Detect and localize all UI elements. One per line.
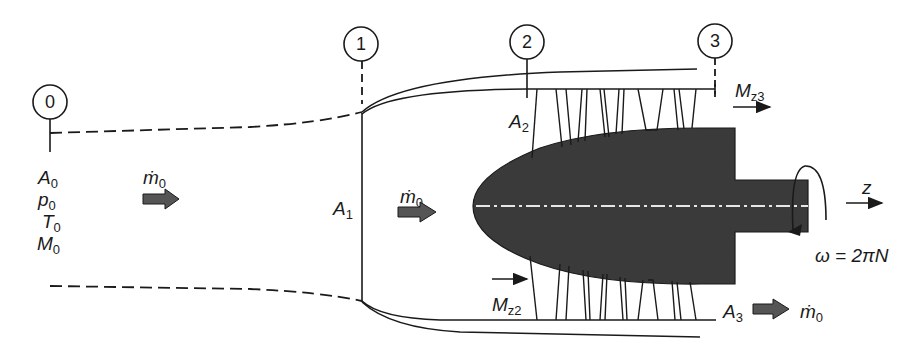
- upper-casing-outer: [362, 69, 697, 112]
- axis-z-label: z: [861, 177, 872, 198]
- freestream-properties: A0 p0 T0 M0: [37, 167, 61, 257]
- moment-3-label: Mz3: [735, 80, 765, 104]
- station-1-label: 1: [356, 34, 366, 54]
- station-3-label: 3: [710, 31, 720, 51]
- station-1-marker: 1: [344, 27, 378, 104]
- station-2-label: 2: [522, 32, 532, 52]
- mass-flow-exit-arrow: [753, 299, 789, 319]
- station-0-marker: 0: [33, 85, 67, 152]
- lower-casing-inner: [362, 301, 716, 320]
- area-1-label: A1: [332, 198, 353, 222]
- turbomachine-diagram: 0 1 2 3: [0, 0, 918, 360]
- area-3-label: A3: [722, 301, 743, 325]
- mass-flow-exit-label: ṁ0: [800, 301, 823, 325]
- pressure-0-label: p0: [37, 189, 56, 213]
- area-2-label: A2: [508, 111, 529, 135]
- lower-streamtube-boundary: [50, 286, 362, 301]
- station-2-marker: 2: [510, 25, 544, 98]
- rotation-label: ω = 2πN: [815, 245, 889, 266]
- mass-flow-upstream-label: ṁ0: [143, 167, 166, 191]
- mass-flow-upstream-arrow: [143, 189, 179, 209]
- area-0-label: A0: [37, 167, 58, 191]
- upper-streamtube-boundary: [50, 112, 362, 133]
- mach-0-label: M0: [37, 233, 60, 257]
- station-0-label: 0: [45, 92, 55, 112]
- temperature-0-label: T0: [42, 211, 61, 235]
- moment-2-label: Mz2: [492, 294, 522, 318]
